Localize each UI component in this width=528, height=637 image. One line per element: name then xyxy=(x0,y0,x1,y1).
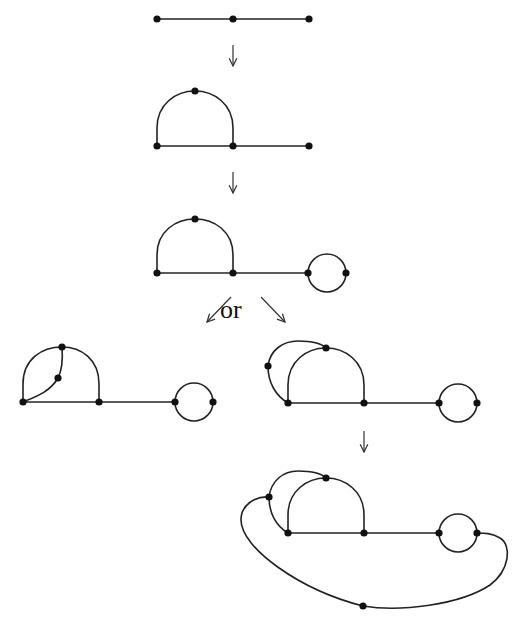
vertex xyxy=(284,529,291,536)
vertex xyxy=(265,493,272,500)
vertex xyxy=(284,399,291,406)
loop-edge xyxy=(175,383,213,421)
vertex xyxy=(209,398,216,405)
vertex xyxy=(359,602,366,609)
vertex xyxy=(153,269,160,276)
arc-edge xyxy=(157,91,233,146)
loop-edge xyxy=(439,384,477,422)
graph-step-4a xyxy=(19,343,216,421)
vertex xyxy=(342,269,349,276)
arc-edge xyxy=(23,347,99,402)
loop-edge xyxy=(308,254,346,292)
vertex xyxy=(360,529,367,536)
vertex xyxy=(171,398,178,405)
big-curve-edge-left xyxy=(241,497,363,606)
vertex xyxy=(54,374,61,381)
vertex xyxy=(191,215,198,222)
vertex xyxy=(322,474,329,481)
outer-arc-edge xyxy=(268,341,326,403)
vertex xyxy=(473,529,480,536)
graph-diagram: or xyxy=(0,0,528,637)
vertex xyxy=(191,87,198,94)
vertex xyxy=(435,529,442,536)
arc-edge xyxy=(157,219,233,273)
vertex xyxy=(153,15,160,22)
graph-step-1 xyxy=(153,15,312,22)
down-right-arrow-icon xyxy=(261,297,285,322)
outer-arc-edge xyxy=(269,471,326,533)
vertex xyxy=(305,142,312,149)
vertex xyxy=(435,399,442,406)
loop-edge xyxy=(439,514,477,552)
vertex xyxy=(264,362,271,369)
graph-step-5 xyxy=(241,471,507,610)
vertex xyxy=(473,399,480,406)
graph-step-4b xyxy=(264,341,480,422)
graph-step-2 xyxy=(153,87,312,149)
vertex xyxy=(360,399,367,406)
vertex xyxy=(19,398,26,405)
vertex xyxy=(229,269,236,276)
vertex xyxy=(229,15,236,22)
or-label: or xyxy=(220,295,242,324)
arc-edge xyxy=(288,348,364,403)
graph-step-3 xyxy=(153,215,349,292)
arc-edge xyxy=(288,478,364,533)
vertex xyxy=(304,269,311,276)
vertex xyxy=(153,142,160,149)
big-curve-edge-right xyxy=(363,533,507,608)
vertex xyxy=(95,398,102,405)
chord-edge xyxy=(23,347,62,402)
vertex xyxy=(322,344,329,351)
vertex xyxy=(305,15,312,22)
vertex xyxy=(58,343,65,350)
vertex xyxy=(229,142,236,149)
